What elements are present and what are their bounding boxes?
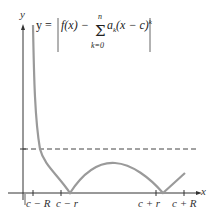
tick-label-c-plus-r: c + r — [138, 197, 160, 209]
sum-upper: n — [98, 12, 102, 21]
term-rest: (x − c) — [116, 18, 149, 32]
term-sup: k — [149, 18, 152, 26]
sum-lower: k=0 — [91, 41, 104, 50]
formula-f: f(x) − — [61, 18, 89, 33]
sum-symbol: Σ — [95, 22, 106, 40]
tick-label-c-plus-R: c + R — [172, 197, 197, 209]
x-axis-label: x — [201, 185, 206, 197]
tick-label-c-minus-r: c − r — [56, 197, 78, 209]
formula-term: ak(x − c)k — [107, 18, 152, 34]
tick-label-c-minus-R: c − R — [26, 197, 51, 209]
formula-bars — [0, 0, 212, 60]
